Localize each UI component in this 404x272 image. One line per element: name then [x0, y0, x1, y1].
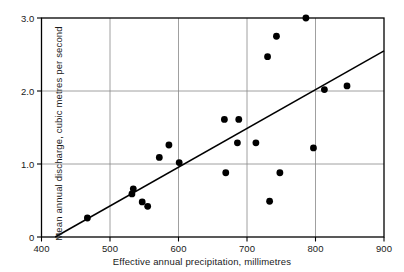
x-tick-label: 800: [307, 243, 323, 254]
data-point: [166, 142, 173, 149]
y-tick-label: 0: [0, 232, 35, 243]
x-tick-label: 600: [170, 243, 186, 254]
trend-line: [55, 51, 384, 237]
data-point: [139, 199, 146, 206]
data-point: [221, 116, 228, 123]
x-axis-title: Effective annual precipitation, millimet…: [0, 256, 404, 267]
y-tick-label: 1.0: [0, 159, 35, 170]
y-tick-label: 2.0: [0, 86, 35, 97]
data-point: [176, 159, 183, 166]
data-points: [84, 15, 350, 222]
data-point: [253, 139, 260, 146]
x-tick-label: 900: [376, 243, 392, 254]
data-point: [234, 139, 241, 146]
data-point: [235, 116, 242, 123]
data-point: [321, 86, 328, 93]
scatter-chart: 40050060070080090001.02.03.0 Effective a…: [0, 0, 404, 272]
data-point: [344, 82, 351, 89]
x-tick-label: 400: [33, 243, 49, 254]
x-tick-label: 700: [239, 243, 255, 254]
data-point: [264, 53, 271, 60]
gridlines: [42, 18, 385, 237]
data-point: [222, 169, 229, 176]
y-axis-title: Mean annual discharge, cubic metres per …: [53, 24, 64, 244]
data-point: [129, 191, 136, 198]
data-point: [303, 15, 310, 22]
x-tick-label: 500: [102, 243, 118, 254]
y-tick-label: 3.0: [0, 13, 35, 24]
data-point: [144, 203, 151, 210]
data-point: [266, 198, 273, 205]
data-point: [84, 215, 91, 222]
axis-frame: [42, 18, 385, 237]
axis-tick-marks: [37, 18, 384, 242]
data-point: [273, 33, 280, 40]
data-point: [156, 154, 163, 161]
data-point: [276, 169, 283, 176]
data-point: [310, 145, 317, 152]
